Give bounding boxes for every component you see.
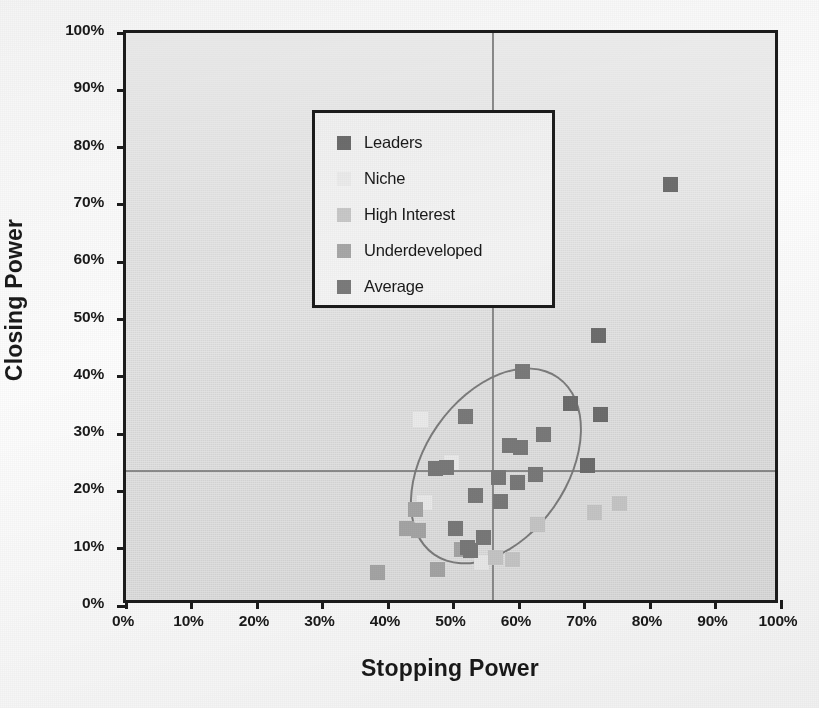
legend-item-high-interest[interactable]: High Interest [337, 199, 552, 230]
x-axis-tick-label: 50% [435, 612, 465, 630]
x-axis-tick [583, 600, 586, 609]
plot-area: LeadersNicheHigh InterestUnderdevelopedA… [123, 30, 778, 603]
data-point-niche [413, 412, 428, 427]
data-point-high-interest [488, 550, 503, 565]
legend-label: High Interest [364, 205, 455, 224]
data-point-leaders [591, 328, 606, 343]
y-axis-tick [117, 32, 126, 35]
legend-label: Underdeveloped [364, 241, 482, 260]
data-point-high-interest [530, 517, 545, 532]
legend-item-leaders[interactable]: Leaders [337, 127, 552, 158]
x-axis-tick [387, 600, 390, 609]
y-axis-tick-label: 50% [74, 308, 104, 326]
data-point-average [536, 427, 551, 442]
legend-swatch-icon [337, 208, 351, 222]
legend-swatch-icon [337, 172, 351, 186]
chart-page: Closing Power Stopping Power 0%10%20%30%… [0, 0, 819, 708]
y-axis-tick [117, 89, 126, 92]
data-point-average [463, 543, 478, 558]
legend-item-niche[interactable]: Niche [337, 163, 552, 194]
data-point-leaders [663, 177, 678, 192]
legend-item-underdeveloped[interactable]: Underdeveloped [337, 235, 552, 266]
x-axis-tick-label: 40% [370, 612, 400, 630]
y-axis-tick [117, 318, 126, 321]
y-axis-tick-label: 20% [74, 479, 104, 497]
x-axis-tick [125, 600, 128, 609]
y-axis-tick-label: 0% [82, 594, 104, 612]
x-axis-tick [780, 600, 783, 609]
y-axis-tick [117, 433, 126, 436]
x-axis-tick [452, 600, 455, 609]
legend-swatch-icon [337, 136, 351, 150]
x-axis-tick-label: 20% [239, 612, 269, 630]
data-point-average [513, 440, 528, 455]
x-axis-tick [518, 600, 521, 609]
data-point-average [493, 494, 508, 509]
data-point-average [458, 409, 473, 424]
data-point-leaders [593, 407, 608, 422]
data-point-average [491, 470, 506, 485]
legend-item-average[interactable]: Average [337, 271, 552, 302]
y-axis-tick-label: 90% [74, 78, 104, 96]
x-axis-title: Stopping Power [361, 655, 539, 682]
x-axis-tick-label: 100% [759, 612, 798, 630]
y-axis-tick [117, 203, 126, 206]
x-axis-tick [190, 600, 193, 609]
data-point-underdeveloped [411, 523, 426, 538]
y-axis-tick [117, 375, 126, 378]
legend-label: Leaders [364, 133, 422, 152]
data-point-leaders [580, 458, 595, 473]
x-axis-tick [714, 600, 717, 609]
data-point-average [448, 521, 463, 536]
y-axis-tick-label: 70% [74, 193, 104, 211]
data-point-average [510, 475, 525, 490]
data-point-average [476, 530, 491, 545]
y-axis-tick [117, 146, 126, 149]
x-axis-tick-label: 60% [501, 612, 531, 630]
data-point-high-interest [612, 496, 627, 511]
y-axis-tick-label: 10% [74, 537, 104, 555]
x-axis-tick-label: 10% [173, 612, 203, 630]
data-point-high-interest [587, 505, 602, 520]
chart-legend: LeadersNicheHigh InterestUnderdevelopedA… [312, 110, 555, 308]
x-axis-tick-labels: 0%10%20%30%40%50%60%70%80%90%100% [123, 612, 778, 638]
y-axis-tick-label: 30% [74, 422, 104, 440]
y-axis-tick [117, 261, 126, 264]
legend-label: Average [364, 277, 424, 296]
data-point-leaders [563, 396, 578, 411]
data-point-underdeveloped [408, 502, 423, 517]
y-axis-tick-label: 60% [74, 250, 104, 268]
y-axis-tick-labels: 0%10%20%30%40%50%60%70%80%90%100% [0, 30, 118, 603]
data-point-average [428, 461, 443, 476]
x-axis-tick-label: 70% [566, 612, 596, 630]
y-axis-tick [117, 547, 126, 550]
y-axis-tick-label: 80% [74, 136, 104, 154]
x-axis-tick [256, 600, 259, 609]
x-axis-tick-label: 0% [112, 612, 134, 630]
legend-swatch-icon [337, 244, 351, 258]
x-axis-tick-label: 80% [632, 612, 662, 630]
legend-label: Niche [364, 169, 405, 188]
x-axis-tick-label: 90% [697, 612, 727, 630]
data-point-high-interest [505, 552, 520, 567]
data-point-average [528, 467, 543, 482]
legend-swatch-icon [337, 280, 351, 294]
y-axis-tick-label: 100% [65, 21, 104, 39]
data-point-underdeveloped [370, 565, 385, 580]
y-axis-tick-label: 40% [74, 365, 104, 383]
x-axis-tick [649, 600, 652, 609]
y-axis-tick [117, 490, 126, 493]
data-point-underdeveloped [430, 562, 445, 577]
data-point-average [515, 364, 530, 379]
x-axis-tick [321, 600, 324, 609]
data-point-average [468, 488, 483, 503]
x-axis-tick-label: 30% [304, 612, 334, 630]
